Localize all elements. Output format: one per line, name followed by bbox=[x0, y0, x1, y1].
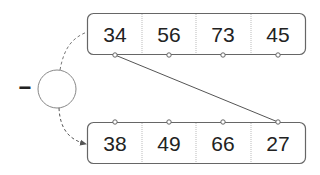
top-cell-3: 45 bbox=[266, 23, 289, 46]
operation-node bbox=[38, 70, 76, 108]
top-array: 34 56 73 45 bbox=[88, 14, 306, 55]
top-cell-2: 73 bbox=[211, 23, 234, 46]
connector-line bbox=[115, 55, 278, 122]
top-cell-1: 56 bbox=[157, 23, 180, 46]
bottom-array: 38 49 66 27 bbox=[88, 123, 306, 164]
bottom-cell-2: 66 bbox=[211, 132, 234, 155]
dashed-input-edge bbox=[60, 32, 87, 70]
operator-symbol: − bbox=[19, 75, 32, 100]
bottom-cell-1: 49 bbox=[157, 132, 180, 155]
bottom-cell-3: 27 bbox=[266, 132, 289, 155]
dashed-output-arrow bbox=[59, 108, 86, 144]
diagram-canvas: − 34 56 73 45 38 49 66 27 bbox=[0, 0, 320, 175]
top-cell-0: 34 bbox=[103, 23, 127, 46]
bottom-cell-0: 38 bbox=[103, 132, 126, 155]
